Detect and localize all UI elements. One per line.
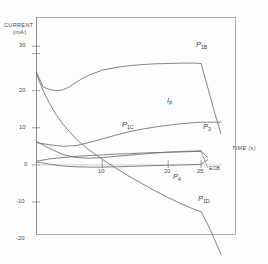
curve-label-p3: P3 bbox=[203, 122, 211, 132]
curve-label-p4-sub: 4 bbox=[178, 176, 181, 182]
curve-label-p1b-sub: 1B bbox=[201, 44, 207, 50]
curve-p1d bbox=[37, 74, 221, 254]
curve-label-ip: IP bbox=[167, 96, 173, 106]
curve-label-p1d-sub: 1D bbox=[203, 198, 210, 204]
curve-label-p3-sub: 3 bbox=[208, 126, 211, 132]
y-tick-label-20: 20 bbox=[19, 87, 25, 93]
curve-label-ip-sub: P bbox=[169, 100, 172, 106]
y-tick-label-0: 0 bbox=[24, 161, 27, 167]
y-axis-title: CURRENT (mA) bbox=[4, 22, 33, 36]
y-tick-label-30: 30 bbox=[19, 42, 25, 48]
y-axis-title-line2: (mA) bbox=[13, 29, 26, 36]
curve-label-p1c: P1C bbox=[122, 120, 134, 130]
x-tick-label-10: 10 bbox=[98, 168, 104, 174]
curve-label-p1c-sub: 1C bbox=[127, 124, 134, 130]
curve-p3 bbox=[37, 152, 208, 162]
y-tick-marks bbox=[32, 54, 40, 202]
x-axis-title: TIME (s) bbox=[232, 145, 256, 152]
curve-p4 bbox=[37, 160, 208, 167]
chart-figure: CURRENT (mA) TIME (s) 30 20 10 0 -10 -20… bbox=[0, 0, 268, 264]
eob-annotation: EOB bbox=[209, 165, 220, 171]
y-tick-label-10: 10 bbox=[19, 124, 25, 130]
curve-label-p1d: P1D bbox=[198, 194, 210, 204]
y-tick-label-neg10: -10 bbox=[16, 198, 24, 204]
y-axis-title-line1: CURRENT bbox=[4, 22, 33, 28]
curve-label-p1b: P1B bbox=[196, 40, 207, 50]
curve-p1c bbox=[37, 142, 202, 159]
curve-label-p4: P4 bbox=[173, 172, 181, 182]
y-tick-label-neg20: -20 bbox=[16, 235, 24, 241]
x-tick-label-20: 20 bbox=[164, 168, 170, 174]
x-tick-label-25: 25 bbox=[197, 168, 203, 174]
plot-canvas bbox=[0, 0, 268, 264]
